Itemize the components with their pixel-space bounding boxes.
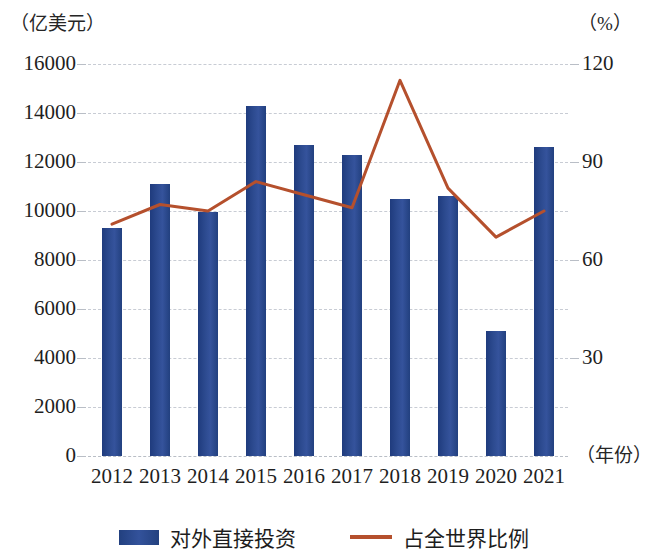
plot-area: 1600014000120001000080006000400020000 12… bbox=[88, 64, 568, 456]
left-axis-tick-label: 10000 bbox=[24, 200, 77, 221]
chart-container: （亿美元） （%） （年份） 1600014000120001000080006… bbox=[0, 0, 648, 555]
gridline bbox=[88, 456, 568, 457]
gridline bbox=[88, 64, 568, 65]
bar-2013 bbox=[150, 184, 170, 456]
left-axis-tick-label: 2000 bbox=[34, 396, 76, 417]
left-axis-tick-mark bbox=[77, 358, 86, 359]
bar-2019 bbox=[438, 196, 458, 456]
left-axis-tick-label: 4000 bbox=[34, 347, 76, 368]
bar-2016 bbox=[294, 145, 314, 456]
left-axis-tick-label: 6000 bbox=[34, 298, 76, 319]
left-axis-tick-label: 12000 bbox=[24, 151, 77, 172]
left-axis-tick-mark bbox=[77, 211, 86, 212]
left-axis-unit-label: （亿美元） bbox=[10, 8, 105, 35]
left-axis-tick-mark bbox=[77, 162, 86, 163]
bar-2014 bbox=[198, 212, 218, 456]
left-axis-tick-mark bbox=[77, 64, 86, 65]
left-axis-tick-mark bbox=[77, 456, 86, 457]
legend-bar-swatch-icon bbox=[119, 530, 159, 545]
right-axis-tick-label: 60 bbox=[582, 249, 603, 270]
left-axis-tick-label: 0 bbox=[66, 445, 77, 466]
left-axis-tick-label: 8000 bbox=[34, 249, 76, 270]
right-axis-tick-mark bbox=[570, 64, 579, 65]
right-axis-unit-label: （%） bbox=[578, 8, 632, 35]
bar-2017 bbox=[342, 155, 362, 456]
bar-2018 bbox=[390, 199, 410, 456]
legend-item-1[interactable]: 对外直接投资 bbox=[119, 522, 296, 552]
right-axis-tick-label: 30 bbox=[582, 347, 603, 368]
gridline bbox=[88, 162, 568, 163]
left-axis-tick-mark bbox=[77, 407, 86, 408]
right-axis-tick-label: 120 bbox=[582, 53, 614, 74]
right-axis-tick-label: 90 bbox=[582, 151, 603, 172]
right-axis-tick-mark bbox=[570, 358, 579, 359]
left-axis-tick-label: 14000 bbox=[24, 102, 77, 123]
bar-2020 bbox=[486, 331, 506, 456]
share-of-world-line bbox=[112, 80, 544, 237]
legend-label: 对外直接投资 bbox=[170, 522, 296, 552]
x-axis-label-2021: 2021 bbox=[514, 464, 574, 489]
x-axis-unit-label: （年份） bbox=[576, 440, 648, 467]
bar-2012 bbox=[102, 228, 122, 456]
chart-legend: 对外直接投资占全世界比例 bbox=[0, 522, 648, 552]
legend-line-swatch-icon bbox=[350, 535, 392, 539]
left-axis-tick-label: 16000 bbox=[24, 53, 77, 74]
bar-2015 bbox=[246, 106, 266, 456]
bar-2021 bbox=[534, 147, 554, 456]
gridline bbox=[88, 113, 568, 114]
legend-item-2[interactable]: 占全世界比例 bbox=[350, 522, 529, 552]
left-axis-tick-mark bbox=[77, 260, 86, 261]
right-axis-tick-mark bbox=[570, 162, 579, 163]
right-axis-tick-mark bbox=[570, 260, 579, 261]
left-axis-tick-mark bbox=[77, 113, 86, 114]
left-axis-tick-mark bbox=[77, 309, 86, 310]
legend-label: 占全世界比例 bbox=[403, 522, 529, 552]
